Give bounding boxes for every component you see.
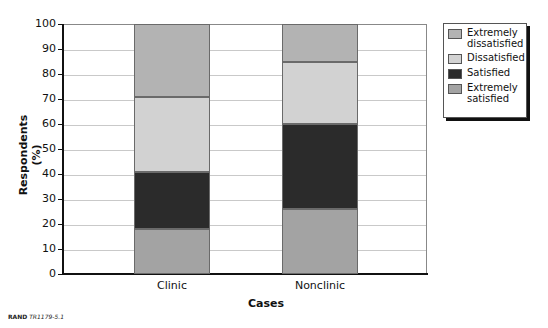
bar-segment-extremely-dissatisfied: [134, 24, 210, 97]
y-tick-mark: [58, 124, 62, 125]
bar-segment-dissatisfied: [134, 97, 210, 172]
y-axis-title: Respondents (%): [17, 110, 43, 200]
bar-segment-satisfied: [134, 172, 210, 230]
legend-swatch: [448, 84, 462, 94]
y-tick-mark: [58, 174, 62, 175]
x-axis-line: [62, 273, 428, 275]
legend-label: Satisfied: [467, 67, 510, 78]
x-axis-title: Cases: [236, 297, 296, 310]
bar-segment-extremely-satisfied: [282, 209, 358, 274]
y-tick-mark: [58, 74, 62, 75]
y-tick-label: 90: [26, 43, 56, 55]
legend-item: Dissatisfied: [448, 52, 522, 64]
gridline: [62, 250, 426, 251]
gridline: [62, 200, 426, 201]
source-id: TR1179-5.1: [29, 313, 64, 320]
y-tick-mark: [58, 149, 62, 150]
bar-segment-satisfied: [282, 124, 358, 209]
y-tick-label: 10: [26, 243, 56, 255]
bar-clinic: [134, 24, 210, 274]
y-tick-label: 0: [26, 268, 56, 280]
legend-item: Extremelysatisfied: [448, 82, 522, 104]
source-note: RAND TR1179-5.1: [8, 313, 64, 320]
y-tick-mark: [58, 24, 62, 25]
gridline: [62, 125, 426, 126]
gridline: [62, 175, 426, 176]
legend-label: Dissatisfied: [467, 52, 525, 63]
y-axis-line: [62, 24, 64, 275]
y-tick-mark: [58, 249, 62, 250]
y-tick-mark: [58, 49, 62, 50]
legend-item: Extremelydissatisfied: [448, 27, 522, 49]
gridline: [62, 100, 426, 101]
gridline: [62, 75, 426, 76]
y-tick-label: 80: [26, 68, 56, 80]
legend-item: Satisfied: [448, 67, 522, 79]
y-tick-mark: [58, 199, 62, 200]
legend-swatch: [448, 54, 462, 64]
y-tick-mark: [58, 274, 62, 275]
legend-swatch: [448, 29, 462, 39]
plot-area: [62, 24, 427, 274]
bar-segment-extremely-satisfied: [134, 229, 210, 274]
legend-label: Extremelydissatisfied: [467, 27, 523, 49]
legend-label: Extremelysatisfied: [467, 82, 518, 104]
y-tick-label: 100: [26, 18, 56, 30]
y-tick-label: 20: [26, 218, 56, 230]
gridline: [62, 50, 426, 51]
gridline: [62, 150, 426, 151]
source-org: RAND: [8, 313, 27, 320]
bar-segment-extremely-dissatisfied: [282, 24, 358, 62]
legend: ExtremelydissatisfiedDissatisfiedSatisfi…: [443, 23, 527, 118]
bar-segment-dissatisfied: [282, 62, 358, 125]
y-tick-mark: [58, 99, 62, 100]
y-tick-label: 70: [26, 93, 56, 105]
bar-nonclinic: [282, 24, 358, 274]
x-tick-label: Clinic: [122, 279, 222, 292]
x-tick-label: Nonclinic: [270, 279, 370, 292]
y-tick-mark: [58, 224, 62, 225]
legend-swatch: [448, 69, 462, 79]
gridline: [62, 225, 426, 226]
